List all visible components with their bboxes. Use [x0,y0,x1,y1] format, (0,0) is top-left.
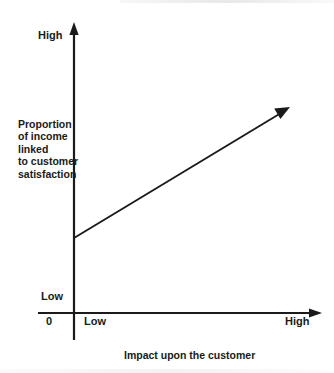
trend-line-arrowhead [274,107,290,119]
y-axis-arrowhead [69,22,78,35]
origin-label: 0 [46,315,52,328]
x-axis-low-tick-label: Low [84,315,106,328]
y-axis-title-line-2: of income [18,130,78,142]
trend-line [74,113,281,238]
y-axis-title-line-3: linked [18,143,78,155]
y-axis-title-line-5: satisfaction [18,168,78,180]
x-axis-title: Impact upon the customer [124,349,255,361]
y-axis-title-line-4: to customer [18,155,78,167]
y-axis-title-line-1: Proportion [18,118,78,130]
x-axis-high-tick-label: High [285,315,309,328]
x-axis-arrowhead [309,308,322,317]
y-axis-low-tick-label: Low [41,290,63,303]
y-axis-high-tick-label: High [38,29,62,42]
y-axis-title: Proportion of income linked to customer … [18,118,78,180]
chart-figure: High Low 0 Low High Proportion of income… [0,0,334,373]
